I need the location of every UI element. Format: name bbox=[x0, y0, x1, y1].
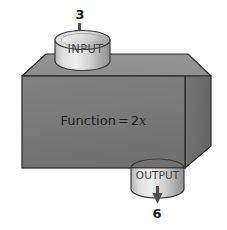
input-cylinder-label: INPUT bbox=[63, 44, 108, 56]
variable-x: x bbox=[139, 113, 146, 128]
output-value-label: 6 bbox=[137, 207, 177, 220]
equals-sign: = bbox=[116, 113, 131, 128]
input-value-label: 3 bbox=[60, 8, 100, 21]
box-top-face bbox=[22, 54, 211, 76]
function-word: Function bbox=[61, 113, 116, 128]
output-cylinder-label: OUTPUT bbox=[133, 170, 182, 181]
coefficient: 2 bbox=[131, 113, 139, 128]
box-side-face bbox=[185, 76, 211, 168]
function-expression-label: Function=2x bbox=[22, 114, 185, 127]
diagram-canvas: 3 INPUT Function=2x OUTPUT 6 bbox=[0, 0, 227, 230]
